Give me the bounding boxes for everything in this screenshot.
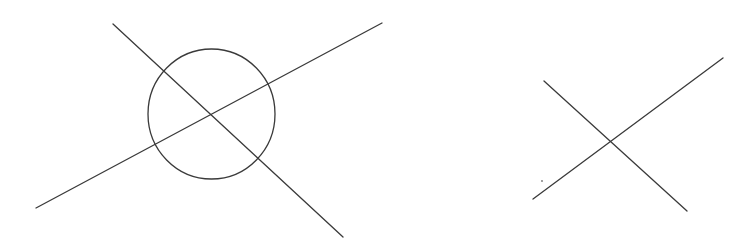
descending-line bbox=[113, 24, 343, 237]
stray-dot bbox=[541, 180, 543, 182]
ascending-line bbox=[36, 23, 382, 208]
figure-circle-with-lines bbox=[36, 23, 382, 237]
diagram-canvas bbox=[0, 0, 750, 247]
figure-crossing-lines bbox=[533, 58, 723, 211]
ascending-line bbox=[533, 58, 723, 199]
